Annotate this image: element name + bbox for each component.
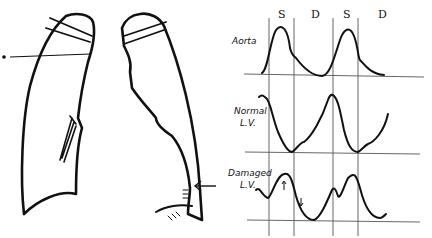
phase-label-d2: D (378, 8, 387, 21)
trace-label-normal: Normal (234, 106, 267, 116)
figure-canvas: S D S D Aorta Normal L.V. Damaged L.V. (0, 0, 432, 238)
phase-label-d1: D (311, 8, 320, 21)
lungs-drawing (22, 14, 202, 220)
waveform-chart: S D S D Aorta Normal L.V. Damaged L.V. (228, 8, 424, 236)
trace-label-damaged-lv: L.V. (240, 180, 256, 190)
phase-label-s2: S (343, 8, 351, 21)
hilum-markings (60, 116, 76, 162)
trace-aorta (262, 27, 384, 76)
trace-label-damaged: Damaged (228, 168, 272, 178)
trace-label-aorta: Aorta (231, 36, 256, 46)
left-clavicle-lines (46, 18, 92, 42)
trace-damaged-lv (256, 174, 386, 220)
left-lung-outline (22, 14, 94, 214)
pointer-apex (3, 54, 90, 58)
phase-label-s1: S (278, 8, 286, 21)
trace-normal-lv (259, 95, 388, 152)
right-clavicle-lines (124, 22, 166, 44)
phase-grid (269, 18, 358, 236)
right-lung-outline (122, 14, 202, 220)
pointer-arrow (195, 181, 216, 191)
right-diaphragm (156, 205, 192, 212)
trace-label-normal-lv: L.V. (240, 118, 256, 128)
